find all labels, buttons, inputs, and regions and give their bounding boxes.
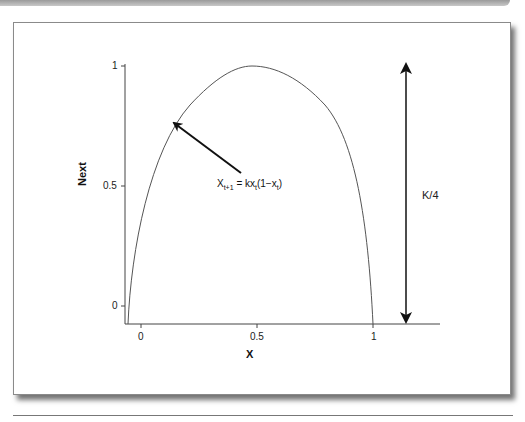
annotation-arrow (174, 123, 241, 173)
y-tick-label-0-5: 0.5 (103, 180, 117, 191)
y-tick-label-1: 1 (112, 60, 118, 71)
logistic-curve (128, 66, 373, 324)
y-tick-label-0: 0 (112, 300, 118, 311)
y-axis-title: Next (76, 162, 88, 186)
k4-label: K/4 (422, 189, 439, 201)
x-tick-label-0-5: 0.5 (250, 331, 264, 342)
x-axis-title: X (246, 348, 253, 360)
equation-label: Xt+1 = kxt(1−xt) (217, 178, 282, 191)
x-tick-label-0: 0 (138, 331, 144, 342)
x-tick-label-1: 1 (371, 331, 377, 342)
chart-plot (0, 0, 525, 422)
